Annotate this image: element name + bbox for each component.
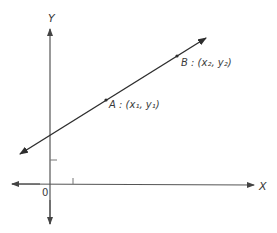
point-b-label: B : (x₂, y₂) xyxy=(181,57,232,68)
x-axis xyxy=(12,184,254,185)
origin-label: 0 xyxy=(42,187,48,198)
y-axis-label: Y xyxy=(48,12,56,25)
x-axis-label: X xyxy=(258,180,267,193)
point-b-marker xyxy=(175,54,178,57)
point-a-label: A : (x₁, y₁) xyxy=(108,99,160,110)
coordinate-diagram: Y X 0 A : (x₁, y₁) B : (x₂, y₂) xyxy=(0,0,277,233)
point-a-marker xyxy=(104,98,107,101)
